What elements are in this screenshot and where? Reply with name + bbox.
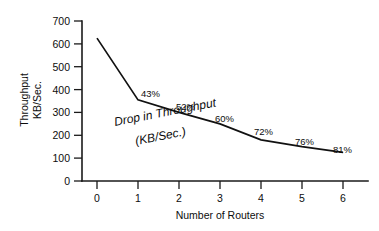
y-tick-label-500: 500 xyxy=(52,61,70,73)
x-tick-label-3: 3 xyxy=(217,192,223,204)
curve-annotation-line2: (KB/Sec.) xyxy=(134,124,187,148)
y-tick-label-100: 100 xyxy=(52,152,70,164)
x-tick-label-6: 6 xyxy=(340,192,346,204)
y-axis-title-line2: KB/Sec. xyxy=(31,81,43,119)
x-tick-label-5: 5 xyxy=(299,192,305,204)
x-tick-label-4: 4 xyxy=(258,192,264,204)
pct-label-76: 76% xyxy=(295,136,315,147)
y-tick-label-400: 400 xyxy=(52,84,70,96)
pct-label-81: 81% xyxy=(333,144,353,155)
y-tick-label-0: 0 xyxy=(64,175,70,187)
throughput-chart: 700 600 500 400 300 200 100 0 0 1 2 3 4 … xyxy=(0,0,379,231)
x-axis-title: Number of Routers xyxy=(176,209,265,221)
chart-canvas: 700 600 500 400 300 200 100 0 0 1 2 3 4 … xyxy=(0,0,379,231)
x-tick-label-2: 2 xyxy=(176,192,182,204)
x-tick-label-1: 1 xyxy=(135,192,141,204)
y-tick-label-700: 700 xyxy=(52,15,70,27)
curve-annotation-line1: Drop in Throughput xyxy=(113,95,218,129)
y-axis-title-line1: Throughput xyxy=(18,73,30,127)
y-tick-label-200: 200 xyxy=(52,129,70,141)
y-tick-label-300: 300 xyxy=(52,106,70,118)
pct-label-60: 60% xyxy=(215,113,235,124)
y-tick-label-600: 600 xyxy=(52,38,70,50)
x-tick-label-0: 0 xyxy=(94,192,100,204)
pct-label-43: 43% xyxy=(141,88,161,99)
pct-label-72: 72% xyxy=(254,126,274,137)
